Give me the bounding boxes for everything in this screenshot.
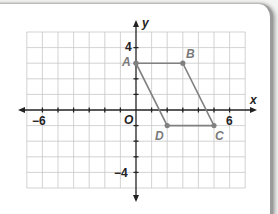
- x-tick-6: 6: [226, 114, 233, 128]
- point-a: [133, 61, 138, 66]
- y-tick-neg4: −4: [114, 166, 128, 180]
- y-axis-label: y: [141, 16, 150, 30]
- point-c: [211, 123, 216, 128]
- point-b: [180, 61, 185, 66]
- y-tick-4: 4: [125, 40, 132, 54]
- point-label-b: B: [186, 47, 195, 61]
- point-label-c: C: [215, 129, 224, 143]
- coordinate-plane: x y O −6 6 4 −4 A B C D: [0, 0, 278, 214]
- origin-label: O: [124, 113, 134, 127]
- x-axis: [18, 107, 257, 113]
- y-axis: [133, 20, 139, 202]
- point-label-d: D: [155, 129, 164, 143]
- x-axis-label: x: [249, 93, 258, 107]
- x-tick-neg6: −6: [32, 114, 46, 128]
- point-label-a: A: [121, 55, 131, 69]
- point-d: [165, 123, 170, 128]
